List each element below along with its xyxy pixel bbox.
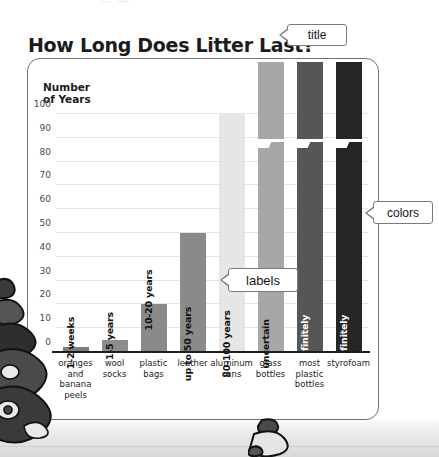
bar: uncertainglass bottles [258,62,284,352]
y-axis-title-line1: Number [43,81,91,93]
x-axis-category-label: glass bottles [249,358,293,379]
y-axis-tick-label: 20 [40,289,51,299]
bar: indefinitelystyrofoam [336,62,362,352]
callout-tail-icon [220,273,229,287]
x-axis-category-label: wool socks [93,358,137,379]
callout-colors-label: colors [387,206,419,220]
x-axis-category-label: most plastic bottles [288,358,332,390]
x-axis-category-label: oranges and banana peels [54,358,98,401]
y-axis-tick-label: 40 [40,242,51,252]
callout-tail-icon [365,206,374,220]
bar: up to 50 yearsleather [180,233,206,352]
callout-title-label: title [308,28,327,42]
y-axis-tick-label: 30 [40,266,51,276]
x-axis-category-label: leather [171,358,215,369]
y-axis-tick-label: 50 [40,218,51,228]
page-footer-band [0,418,439,457]
x-axis-category-label: styrofoam [327,358,371,369]
plot-area: 0102030405060708090100 1-2 weeksoranges … [56,114,368,352]
callout-labels-label: labels [246,273,280,288]
clipped-top-text: — — [100,0,131,6]
bar: indefinitelymost plastic bottles [297,62,323,352]
y-axis-tick-label: 80 [40,147,51,157]
callout-title: title [287,24,347,46]
axis-break-icon [257,139,285,150]
page-title: How Long Does Litter Last? [28,34,314,56]
y-axis-tick-label: 90 [40,123,51,133]
axis-break-icon [335,139,363,150]
y-axis-tick-label: 100 [34,99,51,109]
axis-break-icon [296,139,324,150]
x-axis-line [52,351,370,353]
y-axis-tick-label: 70 [40,170,51,180]
callout-tail-icon [279,28,288,42]
y-axis-tick-label: 10 [40,313,51,323]
bar: 10-20 yearsplastic bags [141,304,167,352]
bar-value-label: up to 50 years [182,307,193,381]
chart-panel: Number of Years 0102030405060708090100 1… [27,58,379,420]
callout-labels: labels [228,268,298,292]
y-axis-tick-label: 0 [45,337,51,347]
callout-colors: colors [373,201,433,224]
x-axis-category-label: aluminum cans [210,358,254,379]
bar: 80-100 yearsaluminum cans [219,114,245,352]
x-axis-category-label: plastic bags [132,358,176,379]
y-axis-tick-label: 60 [40,194,51,204]
bar-value-label: 10-20 years [143,270,154,331]
